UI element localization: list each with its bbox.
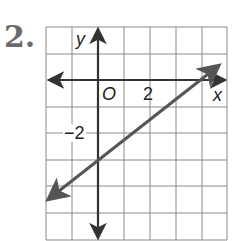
x-tick-label: 2 xyxy=(143,85,153,103)
x-axis-label: x xyxy=(213,86,222,104)
origin-label: O xyxy=(102,85,116,103)
y-axis-label: y xyxy=(76,30,85,48)
coordinate-graph xyxy=(0,0,237,241)
y-tick-label: −2 xyxy=(63,124,86,142)
